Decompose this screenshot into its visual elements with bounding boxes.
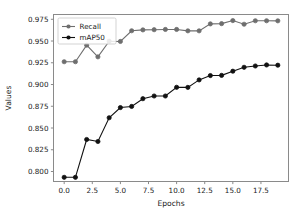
- y-tick-label: 0.875: [28, 102, 49, 111]
- data-point-marker: [118, 39, 122, 43]
- data-point-marker: [242, 65, 246, 69]
- data-point-marker: [96, 55, 100, 59]
- x-tick-label: 15.0: [225, 186, 241, 195]
- y-tick-label: 0.800: [28, 167, 49, 176]
- data-point-marker: [141, 97, 145, 101]
- data-point-marker: [175, 85, 179, 89]
- x-tick-label: 5.0: [115, 186, 127, 195]
- data-point-marker: [186, 85, 190, 89]
- legend-marker-icon: [66, 24, 70, 28]
- y-tick-label: 0.975: [28, 15, 49, 24]
- data-point-marker: [197, 29, 201, 33]
- data-point-marker: [276, 19, 280, 23]
- x-tick-label: 12.5: [197, 186, 213, 195]
- data-point-marker: [175, 27, 179, 31]
- x-axis-label: Epochs: [157, 199, 184, 208]
- data-point-marker: [163, 27, 167, 31]
- data-point-marker: [231, 18, 235, 22]
- x-tick-label: 10.0: [169, 186, 185, 195]
- y-tick-label: 0.900: [28, 80, 49, 89]
- y-tick-label: 0.950: [28, 37, 49, 46]
- data-point-marker: [152, 94, 156, 98]
- data-point-marker: [242, 22, 246, 26]
- chart-figure: 0.02.55.07.510.012.515.017.5 0.8000.8250…: [0, 0, 296, 221]
- x-tick-label: 2.5: [87, 186, 98, 195]
- data-point-marker: [130, 29, 134, 33]
- data-point-marker: [163, 94, 167, 98]
- line-chart-canvas: 0.02.55.07.510.012.515.017.5 0.8000.8250…: [0, 0, 296, 221]
- data-point-marker: [186, 29, 190, 33]
- data-point-marker: [73, 175, 77, 179]
- data-point-marker: [253, 64, 257, 68]
- data-point-marker: [62, 175, 66, 179]
- data-point-marker: [62, 60, 66, 64]
- chart-legend: RecallmAP50: [58, 18, 116, 44]
- data-point-marker: [85, 137, 89, 141]
- legend-marker-icon: [66, 35, 70, 39]
- data-point-marker: [264, 19, 268, 23]
- y-tick-label: 0.850: [28, 124, 49, 133]
- y-tick-label: 0.925: [28, 58, 49, 67]
- data-point-marker: [231, 69, 235, 73]
- x-tick-label: 0.0: [58, 186, 70, 195]
- data-point-marker: [118, 105, 122, 109]
- data-point-marker: [197, 78, 201, 82]
- y-tick-label: 0.825: [28, 145, 49, 154]
- data-point-marker: [276, 63, 280, 67]
- legend-label: Recall: [80, 22, 101, 31]
- y-axis-label: Values: [4, 86, 13, 111]
- data-point-marker: [96, 139, 100, 143]
- data-point-marker: [220, 22, 224, 26]
- data-point-marker: [130, 104, 134, 108]
- data-point-marker: [141, 28, 145, 32]
- data-point-marker: [208, 22, 212, 26]
- data-point-marker: [208, 73, 212, 77]
- data-point-marker: [220, 73, 224, 77]
- data-point-marker: [107, 116, 111, 120]
- data-point-marker: [73, 60, 77, 64]
- data-point-marker: [253, 19, 257, 23]
- data-point-marker: [264, 63, 268, 67]
- legend-label: mAP50: [80, 33, 106, 42]
- x-tick-label: 17.5: [253, 186, 269, 195]
- x-tick-label: 7.5: [143, 186, 154, 195]
- data-point-marker: [152, 28, 156, 32]
